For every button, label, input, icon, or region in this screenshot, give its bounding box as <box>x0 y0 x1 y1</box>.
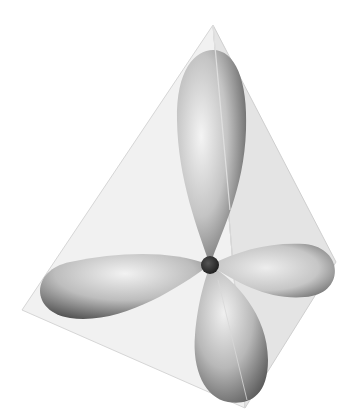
sp3-orbital-diagram <box>0 0 361 417</box>
tetrahedron <box>22 25 336 408</box>
nucleus <box>201 256 219 274</box>
orbital-illustration <box>0 0 361 417</box>
